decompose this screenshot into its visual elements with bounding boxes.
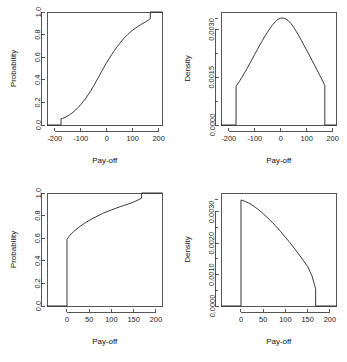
x-tick-label: 0 (278, 134, 282, 143)
chart-panel-bottom-left: 0.00.20.40.60.81.0050100150200Pay-offPro… (0, 181, 174, 362)
y-tick-label: 0.6 (34, 52, 43, 62)
y-axis-title: Density (182, 55, 191, 82)
plot-grid: 0.00.20.40.60.81.0-200-1000100200Pay-off… (0, 0, 347, 362)
y-tick-label: 0.8 (34, 29, 43, 39)
y-tick-label: 0.0000 (207, 295, 216, 318)
x-tick-label: 0 (65, 315, 69, 324)
data-curve-bottom-left (47, 193, 163, 306)
x-tick-label: 200 (150, 315, 162, 324)
plot-box (221, 193, 337, 306)
data-curve-top-left (47, 12, 163, 125)
x-tick-label: 100 (300, 134, 312, 143)
x-axis-title: Pay-off (92, 156, 118, 165)
x-tick-label: -200 (47, 134, 62, 143)
y-tick-label: 0.6 (34, 233, 43, 243)
y-tick-label: 0.0010 (207, 263, 216, 286)
y-tick-label: 0.4 (34, 75, 43, 85)
data-curve-bottom-right (221, 200, 337, 306)
y-tick-label: 0.0030 (207, 18, 216, 41)
y-tick-label: 0.0 (34, 301, 43, 311)
y-tick-label: 0.8 (34, 210, 43, 220)
y-axis-title: Probability (9, 231, 18, 268)
y-tick-label: 0.0030 (207, 201, 216, 224)
x-tick-label: 0 (238, 315, 242, 324)
x-tick-label: -100 (247, 134, 262, 143)
x-tick-label: 50 (85, 315, 93, 324)
x-tick-label: 100 (105, 315, 117, 324)
x-tick-label: 200 (326, 134, 338, 143)
chart-panel-bottom-right: 0.00000.00100.00200.0030050100150200Pay-… (174, 181, 347, 362)
x-tick-label: 0 (105, 134, 109, 143)
y-tick-label: 0.2 (34, 278, 43, 288)
x-tick-label: 150 (127, 315, 139, 324)
y-tick-label: 0.0 (34, 120, 43, 130)
x-tick-label: 100 (126, 134, 138, 143)
chart-panel-top-right: 0.00000.00150.0030-200-1000100200Pay-off… (174, 0, 347, 181)
x-tick-label: 100 (279, 315, 291, 324)
x-axis-title: Pay-off (266, 156, 292, 165)
x-tick-label: -100 (73, 134, 88, 143)
x-axis-title: Pay-off (266, 337, 292, 346)
data-curve-top-right (221, 18, 337, 125)
y-tick-label: 0.0020 (207, 232, 216, 255)
y-tick-label: 0.4 (34, 256, 43, 266)
x-axis-title: Pay-off (92, 337, 118, 346)
y-tick-label: 0.2 (34, 97, 43, 107)
x-tick-label: -200 (221, 134, 236, 143)
y-tick-label: 0.0000 (207, 114, 216, 137)
y-tick-label: 0.0015 (207, 66, 216, 89)
y-axis-title: Density (182, 236, 191, 263)
y-axis-title: Probability (9, 50, 18, 87)
plot-box (221, 12, 337, 125)
x-tick-label: 200 (323, 315, 335, 324)
chart-panel-top-left: 0.00.20.40.60.81.0-200-1000100200Pay-off… (0, 0, 174, 181)
y-tick-label: 1.0 (34, 7, 43, 17)
plot-box (47, 193, 163, 306)
x-tick-label: 150 (301, 315, 313, 324)
y-tick-label: 1.0 (34, 188, 43, 198)
plot-box (47, 12, 163, 125)
x-tick-label: 200 (152, 134, 164, 143)
x-tick-label: 50 (259, 315, 267, 324)
